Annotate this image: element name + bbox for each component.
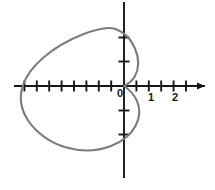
plot-canvas xyxy=(0,0,215,190)
origin-label: 0 xyxy=(117,88,123,99)
x-axis-arrow-icon xyxy=(197,83,205,90)
polar-curve-figure: 0 1 2 xyxy=(0,0,215,190)
x-axis-label-2: 2 xyxy=(172,92,178,103)
x-axis-group xyxy=(14,81,205,92)
x-axis-label-1: 1 xyxy=(148,92,154,103)
